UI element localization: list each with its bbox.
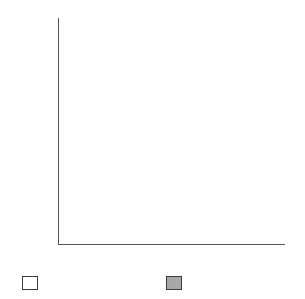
- legend-item-less-developed: [22, 276, 46, 290]
- legend-item-more-developed: [166, 276, 190, 290]
- light-swatch-icon: [22, 276, 38, 290]
- population-stacked-bar-chart: [0, 0, 305, 299]
- y-axis-line: [58, 18, 59, 245]
- x-axis-line: [58, 244, 285, 245]
- chart-legend: [0, 276, 305, 298]
- dark-swatch-icon: [166, 276, 182, 290]
